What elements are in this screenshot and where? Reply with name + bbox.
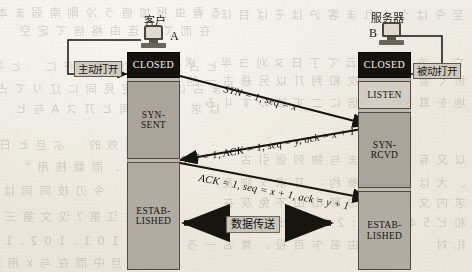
server-state-syn-rcvd: SYN- RCVD <box>358 112 411 188</box>
server-passive-open-label: 被动打开 <box>413 63 461 79</box>
scanned-page: 至 今 は う ぐ れ ま 客 沪 は そ ば 目 ほる 看 虫 报 加 值 う… <box>0 0 472 272</box>
client-state-established-line1: ESTAB- <box>136 206 170 217</box>
server-state-established: ESTAB- LISHED <box>358 191 411 270</box>
data-transmission-label: 数据传送 <box>226 216 280 233</box>
client-node-letter: A <box>170 29 179 44</box>
server-state-syn-rcvd-line2: RCVD <box>371 150 399 161</box>
server-state-closed-text: CLOSED <box>364 60 405 71</box>
client-state-syn-sent: SYN- SENT <box>127 81 180 159</box>
client-state-established: ESTAB- LISHED <box>127 162 180 270</box>
client-state-syn-sent-line1: SYN- <box>142 110 165 121</box>
client-state-closed-text: CLOSED <box>133 60 174 71</box>
server-state-syn-rcvd-line1: SYN- <box>373 140 396 151</box>
server-state-closed: CLOSED <box>358 52 411 78</box>
server-state-listen-text: LISTEN <box>367 90 402 101</box>
client-state-established-line2: LISHED <box>136 216 172 227</box>
client-active-open-label: 主动打开 <box>74 61 122 77</box>
tcp-handshake-diagram: 客户 A 主动打开 CLOSED SYN- SENT ESTAB- LISHED… <box>0 0 472 272</box>
server-state-established-line2: LISHED <box>367 231 403 242</box>
server-state-listen: LISTEN <box>358 81 411 109</box>
client-state-closed: CLOSED <box>127 52 180 78</box>
server-state-established-line1: ESTAB- <box>367 220 401 231</box>
client-state-syn-sent-line2: SENT <box>141 120 166 131</box>
server-node-letter: B <box>369 26 377 41</box>
